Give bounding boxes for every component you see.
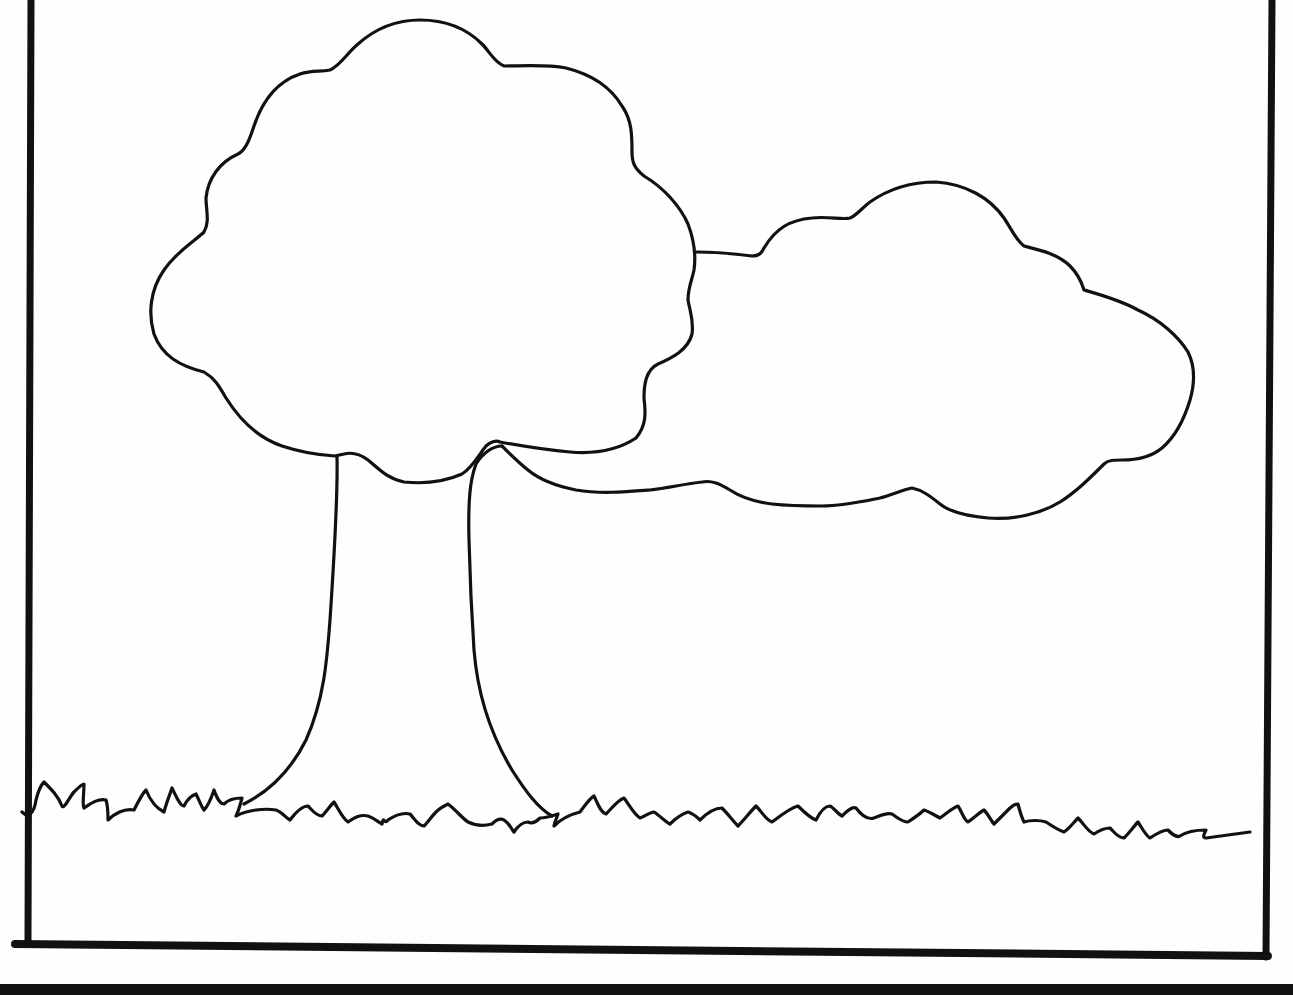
frame-bottom-border	[15, 944, 1268, 956]
tree-drawing	[0, 0, 1293, 995]
frame-right-border	[1266, 0, 1272, 957]
frame-left-border	[28, 0, 31, 940]
frame	[15, 0, 1272, 957]
trunk-right-edge	[469, 446, 552, 816]
grass	[22, 782, 1250, 838]
trunk-left-edge	[244, 457, 337, 804]
bottom-bar	[0, 984, 1293, 995]
tree-canopy	[151, 20, 695, 483]
tree-trunk	[244, 446, 552, 816]
coloring-page-canvas	[0, 0, 1293, 995]
tree-canopy-side	[502, 182, 1194, 518]
